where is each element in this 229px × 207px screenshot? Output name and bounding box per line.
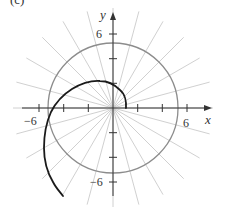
x-tick-label-neg6: −6 xyxy=(24,114,37,128)
x-axis-label: x xyxy=(204,112,211,127)
y-tick-label-6: 6 xyxy=(96,27,102,41)
y-tick-label-neg6: −6 xyxy=(90,175,103,189)
polar-figure: (c) −6 xyxy=(0,0,229,207)
x-tick-label-6: 6 xyxy=(183,116,189,130)
x-axis-arrow-icon xyxy=(204,105,212,111)
y-axis-label: y xyxy=(98,7,106,22)
y-axis-arrow-icon xyxy=(110,12,116,20)
panel-label: (c) xyxy=(10,0,24,7)
